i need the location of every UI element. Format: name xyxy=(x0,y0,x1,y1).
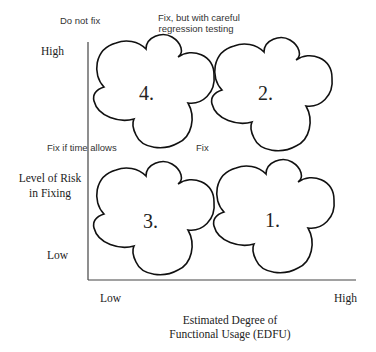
x-axis-title-line2: Functional Usage (EDFU) xyxy=(160,327,300,341)
y-axis-title: Level of Risk in Fixing xyxy=(10,171,90,201)
quadrant-number-3: 3. xyxy=(143,210,158,233)
y-axis-low-label: Low xyxy=(47,249,68,261)
y-axis-title-line1: Level of Risk xyxy=(10,171,90,186)
y-axis-high-label: High xyxy=(41,45,64,57)
quadrant-label-fix-careful-line2: regression testing xyxy=(158,23,234,34)
y-axis-title-line2: in Fixing xyxy=(10,186,90,201)
quadrant-diagram: 4. 2. 3. 1. Do not fix Fix, but with car… xyxy=(0,0,376,352)
quadrant-number-1: 1. xyxy=(265,209,280,232)
quadrant-label-fix: Fix xyxy=(196,142,209,153)
x-axis-low-label: Low xyxy=(100,292,121,304)
quadrant-number-2: 2. xyxy=(258,82,273,105)
quadrant-label-fix-careful-line1: Fix, but with careful xyxy=(158,12,234,23)
quadrant-label-fix-if-time-allows: Fix if time allows xyxy=(47,142,117,153)
quadrant-label-do-not-fix: Do not fix xyxy=(60,15,100,26)
quadrant-number-4: 4. xyxy=(139,82,154,105)
x-axis-high-label: High xyxy=(334,292,357,304)
quadrant-label-fix-careful: Fix, but with careful regression testing xyxy=(158,12,234,34)
x-axis-title-line1: Estimated Degree of xyxy=(160,313,300,327)
x-axis-title: Estimated Degree of Functional Usage (ED… xyxy=(160,313,300,341)
